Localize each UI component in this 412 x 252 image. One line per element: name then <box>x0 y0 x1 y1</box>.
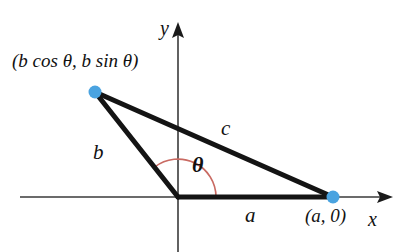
vertex-a-coordinate-label: (a, 0) <box>305 206 346 225</box>
side-b-label: b <box>93 142 104 163</box>
x-axis-label: x <box>368 209 377 229</box>
vertex-point-a <box>327 191 340 204</box>
triangle-side-c <box>95 92 333 197</box>
figure-canvas: (b cos θ, b sin θ) b c a θ (a, 0) x y <box>0 0 412 252</box>
side-c-label: c <box>221 118 230 139</box>
y-axis-label: y <box>160 18 169 38</box>
side-a-label: a <box>245 205 256 226</box>
vertex-b-coordinate-label: (b cos θ, b sin θ) <box>12 51 138 70</box>
diagram-svg <box>0 0 412 252</box>
vertex-point-b <box>89 86 102 99</box>
angle-theta-label: θ <box>192 154 203 176</box>
